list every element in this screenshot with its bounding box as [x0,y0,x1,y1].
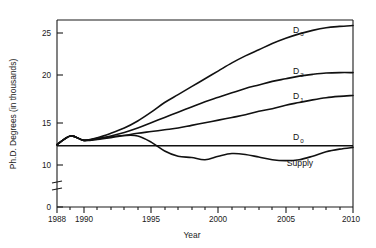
x-axis-minor-ticks [70,207,340,210]
series-label-d1-subscript: 1 [300,96,304,103]
x-tick-label-2010: 2010 [342,215,361,224]
y-tick-label-20: 20 [42,71,52,80]
chart-figure: 0 10 15 20 25 1988 1990 1995 2000 2005 2… [0,0,376,248]
series-label-d1-text: D [293,91,299,101]
x-tick-label-1995: 1995 [142,215,161,224]
y-tick-label-10: 10 [42,161,52,170]
series-label-d2-subscript: 2 [300,71,304,78]
series-label-d3-text: D [293,25,299,35]
y-tick-label-15: 15 [42,119,52,128]
series-label-d0-text: D [293,132,299,142]
x-tick-label-1988: 1988 [48,215,67,224]
y-tick-label-25: 25 [42,29,52,38]
x-tick-label-2000: 2000 [209,215,228,224]
chart-background [0,0,376,248]
series-label-d3-subscript: 3 [300,30,304,37]
x-axis-title: Year [184,230,201,240]
x-tick-label-1990: 1990 [75,215,94,224]
series-label-d2-text: D [293,66,299,76]
series-label-d0-subscript: 0 [300,137,304,144]
y-axis-title: Ph.D. Degrees (in thousands) [8,59,18,170]
x-tick-label-2005: 2005 [277,215,296,224]
chart-svg: 0 10 15 20 25 1988 1990 1995 2000 2005 2… [0,0,376,248]
series-label-supply: Supply [287,158,314,168]
y-tick-label-0: 0 [46,203,51,212]
